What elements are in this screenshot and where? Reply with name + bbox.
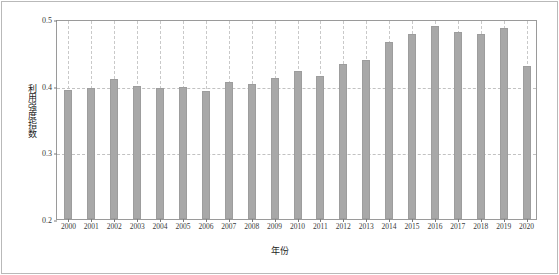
x-tick-label: 2017: [450, 223, 465, 231]
bar: [500, 28, 508, 219]
bar: [156, 88, 164, 219]
chart-figure: 利用强度指数 年份 0.20.30.40.5 20002001200220032…: [0, 0, 559, 275]
y-axis-title: 利用强度指数: [24, 84, 36, 138]
x-tick-label: 2000: [61, 223, 76, 231]
x-tick-label: 2007: [221, 223, 236, 231]
bar: [316, 76, 324, 219]
bar: [385, 42, 393, 219]
x-tick-label: 2014: [382, 223, 397, 231]
bar: [179, 87, 187, 219]
y-tick-mark: [54, 21, 57, 22]
x-tick-label: 2002: [107, 223, 122, 231]
x-tick-label: 2010: [290, 223, 305, 231]
x-tick-label: 2011: [313, 223, 328, 231]
bar: [110, 79, 118, 219]
x-tick-label: 2013: [359, 223, 374, 231]
bar: [248, 84, 256, 219]
x-axis-title: 年份: [0, 247, 559, 256]
bar: [477, 34, 485, 219]
bar: [64, 90, 72, 219]
y-tick-mark: [54, 87, 57, 88]
plot-inner: 0.20.30.40.5 200020012002200320042005200…: [57, 21, 536, 219]
x-tick-label: 2019: [496, 223, 511, 231]
y-tick-mark: [54, 154, 57, 155]
x-tick-label: 2016: [427, 223, 442, 231]
x-tick-label: 2001: [84, 223, 99, 231]
x-tick-label: 2003: [130, 223, 145, 231]
bar: [294, 71, 302, 219]
bar: [202, 91, 210, 219]
bar: [408, 34, 416, 219]
bar: [225, 82, 233, 219]
x-tick-label: 2015: [405, 223, 420, 231]
bar: [523, 66, 531, 219]
bar: [431, 26, 439, 219]
x-tick-label: 2004: [153, 223, 168, 231]
x-tick-label: 2018: [473, 223, 488, 231]
bar: [339, 64, 347, 219]
bar: [133, 86, 141, 219]
y-tick-mark: [54, 221, 57, 222]
bar: [87, 88, 95, 219]
x-tick-label: 2020: [519, 223, 534, 231]
x-tick-label: 2012: [336, 223, 351, 231]
x-tick-label: 2009: [267, 223, 282, 231]
bar: [271, 78, 279, 219]
bar: [362, 60, 370, 219]
plot-area: 0.20.30.40.5 200020012002200320042005200…: [56, 20, 537, 220]
bar: [454, 32, 462, 219]
x-tick-label: 2006: [198, 223, 213, 231]
x-tick-label: 2008: [244, 223, 259, 231]
x-tick-label: 2005: [175, 223, 190, 231]
